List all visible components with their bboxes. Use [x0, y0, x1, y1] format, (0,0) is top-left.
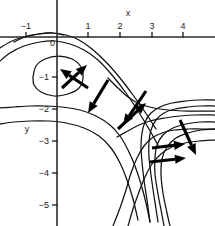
contour-plot-figure: −101234−1−2−3−4−5xy	[0, 0, 215, 226]
contour-right-fan-3	[155, 122, 215, 226]
arrow-down-right-mid-shaft	[94, 80, 108, 104]
arrow-right-lower-head	[175, 155, 186, 164]
y-tick-label--2: −2	[39, 104, 49, 114]
y-tick-label--5: −5	[39, 200, 49, 210]
y-tick-label--1: −1	[39, 72, 49, 82]
contour-right-fan-4	[161, 129, 215, 226]
x-tick-label-4: 4	[180, 21, 185, 31]
x-tick-label-1: 1	[85, 21, 90, 31]
arrow-right-upper-head	[174, 141, 185, 150]
contour-separatrix-left-branch	[0, 106, 150, 222]
arrow-right-lower-shaft	[150, 159, 175, 162]
y-tick-label--4: −4	[39, 168, 49, 178]
x-tick-label-2: 2	[117, 21, 122, 31]
axes-group	[0, 0, 215, 226]
x-tick-label-3: 3	[149, 21, 154, 31]
y-tick-label--3: −3	[39, 136, 49, 146]
y-axis-label: y	[25, 124, 30, 134]
contour-separatrix-lower-left	[0, 121, 138, 220]
x-axis-label: x	[126, 8, 131, 18]
x-tick-label--1: −1	[21, 21, 31, 31]
x-tick-label-0: 0	[50, 38, 55, 48]
plot-canvas: −101234−1−2−3−4−5xy	[0, 0, 215, 226]
contour-lower-left-sweep-1	[113, 129, 215, 226]
contour-upper-arc-2	[0, 41, 158, 145]
arrow-down-left-at-oval-shaft	[69, 75, 88, 88]
